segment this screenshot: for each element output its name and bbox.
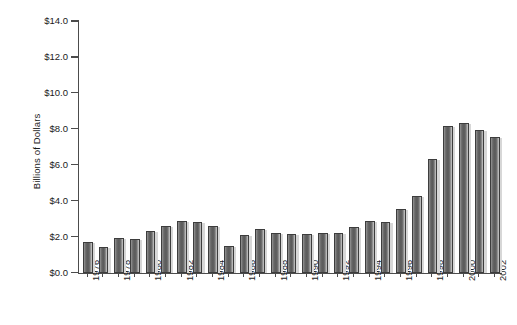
x-axis-tick-mark [337, 273, 338, 277]
bar[interactable] [240, 235, 250, 273]
bar[interactable] [318, 233, 328, 273]
x-axis-tick-mark [494, 273, 495, 277]
bar[interactable] [83, 242, 93, 273]
bar[interactable] [146, 231, 156, 272]
x-axis-tick-mark [478, 273, 479, 277]
x-axis-tick-mark [87, 273, 88, 277]
x-axis-tick-mark [384, 273, 385, 277]
bar[interactable] [443, 126, 453, 272]
bar[interactable] [271, 233, 281, 273]
bar[interactable] [99, 247, 109, 273]
x-axis-tick-mark [463, 273, 464, 277]
x-axis-tick-mark [228, 273, 229, 277]
y-axis-tick-mark [71, 164, 78, 165]
y-axis-tick-mark [71, 272, 78, 273]
x-axis-tick-mark [369, 273, 370, 277]
x-axis-tick-mark [181, 273, 182, 277]
y-axis-tick-label: $10.0 [12, 87, 68, 99]
x-axis-tick-mark [243, 273, 244, 277]
bar[interactable] [302, 234, 312, 273]
y-axis-tick-label-text: $4.0 [18, 195, 68, 206]
y-axis-tick-mark [71, 236, 78, 237]
x-axis-tick-mark [134, 273, 135, 277]
y-axis-tick-label-text: $0.0 [18, 267, 68, 278]
bar[interactable] [365, 221, 375, 273]
x-axis-tick-mark [149, 273, 150, 277]
y-axis-tick-mark [71, 56, 78, 57]
x-axis-tick-mark [118, 273, 119, 277]
bar[interactable] [114, 238, 124, 272]
bar[interactable] [349, 227, 359, 273]
y-axis-tick-label: $14.0 [12, 15, 68, 27]
x-axis-tick-mark [212, 273, 213, 277]
x-axis-tick-mark [290, 273, 291, 277]
bar[interactable] [287, 234, 297, 273]
bar[interactable] [412, 196, 422, 272]
x-axis-tick-mark [165, 273, 166, 277]
y-axis-tick-label: $2.0 [12, 231, 68, 243]
bar[interactable] [475, 130, 485, 273]
bar[interactable] [193, 222, 203, 272]
bar[interactable] [255, 229, 265, 272]
x-axis-tick-mark [259, 273, 260, 277]
y-axis-tick-label-text: $12.0 [18, 51, 68, 62]
x-axis-tick-mark [353, 273, 354, 277]
y-axis-line [78, 20, 79, 274]
y-axis-tick-label: $12.0 [12, 51, 68, 63]
bar[interactable] [334, 233, 344, 273]
x-axis-tick-mark [306, 273, 307, 277]
y-axis-tick-label-text: $10.0 [18, 87, 68, 98]
x-axis-tick-mark [102, 273, 103, 277]
y-axis-tick-label: $6.0 [12, 159, 68, 171]
y-axis-tick-label: $8.0 [12, 123, 68, 135]
x-axis-tick-mark [400, 273, 401, 277]
bar[interactable] [459, 123, 469, 273]
bar[interactable] [428, 159, 438, 273]
x-axis-tick-mark [416, 273, 417, 277]
bar[interactable] [224, 246, 234, 273]
y-axis-tick-mark [71, 20, 78, 21]
y-axis-tick-label-text: $2.0 [18, 231, 68, 242]
bar[interactable] [396, 209, 406, 273]
y-axis-tick-mark [71, 200, 78, 201]
y-axis-tick-label: $0.0 [12, 267, 68, 279]
x-axis-tick-mark [196, 273, 197, 277]
bar[interactable] [490, 137, 500, 273]
x-axis-tick-mark [322, 273, 323, 277]
bar-chart: Billions of Dollars $0.0$2.0$4.0$6.0$8.0… [0, 0, 517, 325]
y-axis-tick-mark [71, 92, 78, 93]
y-axis-tick-label-text: $6.0 [18, 159, 68, 170]
bar[interactable] [177, 221, 187, 272]
y-axis-tick-label-text: $14.0 [18, 15, 68, 26]
bar[interactable] [161, 226, 171, 273]
y-axis-tick-label: $4.0 [12, 195, 68, 207]
y-axis-tick-label-text: $8.0 [18, 123, 68, 134]
x-axis-tick-mark [431, 273, 432, 277]
bar[interactable] [381, 222, 391, 272]
bar[interactable] [130, 239, 140, 272]
x-axis-tick-mark [275, 273, 276, 277]
x-axis-tick-mark [447, 273, 448, 277]
y-axis-tick-mark [71, 128, 78, 129]
bar[interactable] [208, 226, 218, 273]
